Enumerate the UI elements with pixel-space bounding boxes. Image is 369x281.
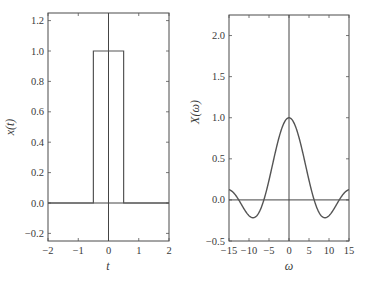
left-y-tick-labels: −0.20.00.20.40.60.81.01.2: [25, 15, 45, 239]
x-tick-label: 10: [324, 245, 335, 256]
x-tick-label: −1: [73, 245, 84, 256]
right-y-axis-label: X(ω): [188, 100, 202, 125]
y-tick-label: −0.2: [25, 228, 44, 239]
left-y-axis-label: x(t): [3, 119, 17, 137]
x-tick-label: 15: [344, 245, 355, 256]
y-tick-label: 1.0: [31, 46, 44, 57]
right-x-tick-labels: −15−10−5051015: [221, 245, 354, 256]
left-zero-lines: [48, 13, 169, 241]
y-tick-label: 0.4: [31, 137, 45, 148]
x-tick-label: 0: [286, 245, 291, 256]
chart-figure: −2−1012 −0.20.00.20.40.60.81.01.2 t x(t)…: [0, 0, 369, 281]
right-x-axis-label: ω: [285, 259, 293, 273]
right-zero-lines: [229, 15, 349, 241]
x-tick-label: 2: [166, 245, 171, 256]
y-tick-label: 1.0: [212, 112, 225, 123]
x-tick-label: 1: [136, 245, 141, 256]
x-tick-label: −15: [221, 245, 237, 256]
y-tick-label: 0.8: [31, 76, 44, 87]
y-tick-label: −0.5: [206, 236, 225, 247]
left-panel: −2−1012 −0.20.00.20.40.60.81.01.2 t x(t): [3, 13, 172, 273]
y-tick-label: 0.6: [31, 106, 44, 117]
x-tick-label: −10: [241, 245, 257, 256]
right-panel: −15−10−5051015 −0.50.00.51.01.52.0 ω X(ω…: [188, 15, 354, 273]
y-tick-label: 0.5: [212, 153, 225, 164]
left-x-tick-labels: −2−1012: [42, 245, 171, 256]
x-tick-label: −5: [263, 245, 274, 256]
y-tick-label: 0.2: [31, 167, 44, 178]
x-tick-label: −2: [42, 245, 53, 256]
y-tick-label: 0.0: [212, 194, 225, 205]
y-tick-label: 1.2: [31, 15, 44, 26]
y-tick-label: 0.0: [31, 198, 44, 209]
x-tick-label: 5: [306, 245, 311, 256]
y-tick-label: 2.0: [212, 30, 225, 41]
y-tick-label: 1.5: [212, 71, 225, 82]
right-y-tick-labels: −0.50.00.51.01.52.0: [206, 30, 225, 246]
x-tick-label: 0: [106, 245, 111, 256]
left-x-axis-label: t: [106, 259, 110, 273]
